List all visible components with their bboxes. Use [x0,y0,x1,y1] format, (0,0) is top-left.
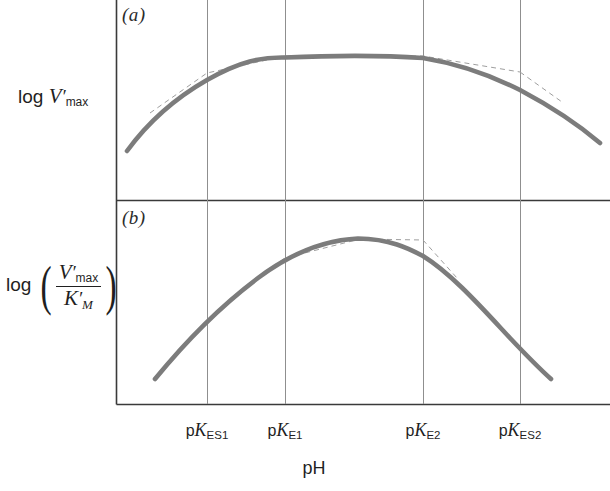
tick-subscript-2: E2 [426,429,440,441]
log-word-a: log [18,86,43,107]
tick-prefix-0: p [186,422,195,439]
subscript-m: M [82,296,93,311]
x-tick-label-pke1: pKE1 [268,420,303,441]
y-axis-label-panel-a: log V′max [18,84,88,109]
x-axis-title-wrap: pH [0,458,610,479]
plot-canvas [0,0,610,491]
panel-label-a: (a) [122,4,146,26]
x-tick-label-pke2: pKE2 [406,420,441,441]
k-symbol-b: K [64,286,78,310]
axes-group [117,0,610,405]
tick-symbol-0: K [195,420,207,440]
v-symbol-b: V [59,260,72,284]
fraction-group: ( V′max K′M ) [37,262,121,310]
v-symbol-a: V [49,84,62,108]
tick-subscript-3: ES2 [520,429,542,441]
log-word-b: log [6,274,31,295]
tick-symbol-2: K [414,420,426,440]
fraction-numerator: V′max [56,262,102,286]
curve-log-vmax [127,56,600,151]
asymptote-a-right [520,72,562,102]
fraction-denominator: K′M [61,287,96,311]
x-tick-label-pkes2: pKES2 [499,420,542,441]
tick-subscript-1: E1 [288,429,302,441]
subscript-max-b: max [76,271,99,285]
fraction: V′max K′M [56,262,102,310]
y-axis-label-panel-b: log ( V′max K′M ) [6,262,120,310]
tick-prefix-2: p [406,422,415,439]
ph-activity-figure: (a) (b) log V′max log ( V′max K′M ) pKES… [0,0,610,491]
tick-subscript-0: ES1 [207,429,229,441]
panel-a-traces [127,56,600,151]
tick-symbol-1: K [276,420,288,440]
tick-symbol-3: K [508,420,520,440]
x-axis-title: pH [302,458,325,478]
tick-prefix-3: p [499,422,508,439]
panel-b-traces [155,239,551,380]
x-tick-label-pkes1: pKES1 [186,420,229,441]
tick-prefix-1: p [268,422,277,439]
asymptote-b-left [258,239,360,277]
paren-open: ( [40,267,51,306]
curve-log-vmax-over-km [155,239,551,380]
panel-label-b: (b) [122,207,146,229]
paren-close: ) [106,267,117,306]
subscript-max-a: max [66,95,89,109]
